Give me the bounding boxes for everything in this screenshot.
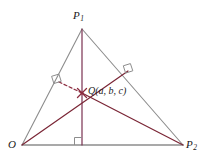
altitude-P2-dashed-segment	[57, 81, 82, 93]
orthocenter-label: Q(a, b, c)	[88, 86, 126, 96]
vertex-label-p1-name: P	[73, 9, 80, 21]
vertex-label-p2: P2	[186, 139, 197, 150]
vertex-label-p2-subscript: 2	[193, 143, 197, 152]
altitude-P2-solid-segment	[82, 93, 183, 145]
vertex-label-p1: P1	[73, 10, 84, 21]
vertex-label-o-name: O	[8, 138, 16, 150]
vertex-label-p1-subscript: 1	[80, 14, 84, 23]
side-O-P1	[22, 29, 82, 145]
geometry-canvas	[0, 0, 205, 161]
geometry-figure: P1 O P2 Q(a, b, c)	[0, 0, 205, 161]
vertex-label-o: O	[8, 139, 16, 150]
vertex-label-p2-name: P	[186, 138, 193, 150]
right-angle-marker-base	[75, 138, 83, 146]
